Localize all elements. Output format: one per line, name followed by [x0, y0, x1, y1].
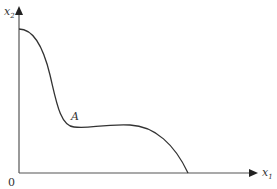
x-axis-label: x1 — [262, 166, 273, 181]
origin-label: 0 — [8, 176, 15, 189]
point-a-label: A — [70, 110, 79, 123]
curve — [19, 29, 188, 173]
y-axis-label: x2 — [4, 5, 15, 20]
y-axis-arrowhead-icon — [15, 6, 23, 15]
diagram-canvas: x2 x1 0 A — [0, 0, 277, 189]
x-axis-arrowhead-icon — [249, 169, 258, 177]
